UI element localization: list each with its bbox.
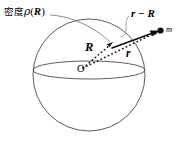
source-vector-label: R: [85, 41, 93, 54]
density-label: 密度ρ(R): [4, 6, 45, 17]
vector-r-minus-R-shaft: [112, 33, 153, 48]
separation-vector-label: r − R: [131, 8, 155, 19]
density-label-cjk: 密度: [4, 6, 24, 17]
equator-ellipse: [33, 61, 145, 79]
origin-label: O: [77, 64, 85, 75]
density-label-close-paren: ): [41, 5, 45, 17]
physics-diagram-sphere-density: 密度ρ(R) r − R R r m O: [0, 0, 184, 141]
point-mass-dot: [157, 27, 163, 33]
density-leader-line: [50, 15, 110, 42]
field-vector-label: r: [126, 48, 130, 60]
point-mass-label: m: [166, 25, 172, 34]
diagram-canvas: [0, 0, 184, 141]
separation-leader-line: [121, 16, 129, 37]
sphere-outline: [33, 19, 145, 131]
